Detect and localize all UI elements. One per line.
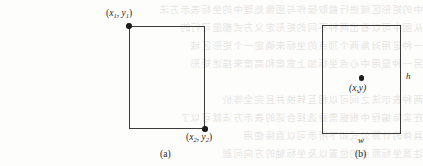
label-point-x-y: (x,y) bbox=[349, 84, 366, 94]
label-width-w: w bbox=[358, 136, 364, 145]
label-point-x2-y2: (x2, y2) bbox=[186, 133, 212, 144]
paren-close: ) bbox=[129, 8, 132, 18]
panel-caption-b: (b) bbox=[355, 150, 366, 160]
paren-close: ) bbox=[209, 132, 212, 142]
center-point bbox=[359, 75, 364, 80]
panel-caption-a: (a) bbox=[160, 150, 171, 160]
corner-point-top-left bbox=[126, 23, 131, 28]
label-point-x1-y1: (x1, y1) bbox=[106, 9, 132, 20]
rectangle-outline-a bbox=[129, 26, 205, 129]
ghost-text-line: 中的矩形区域进行截取操作与图像处理中的坐标表示方法 bbox=[0, 2, 423, 11]
label-height-h: h bbox=[406, 72, 411, 81]
corner-point-bottom-right bbox=[202, 126, 207, 131]
figure-canvas: 中的矩形区域进行截取操作与图像处理中的坐标表示方法 从图中可以看出两种不同的矩形… bbox=[0, 0, 423, 166]
